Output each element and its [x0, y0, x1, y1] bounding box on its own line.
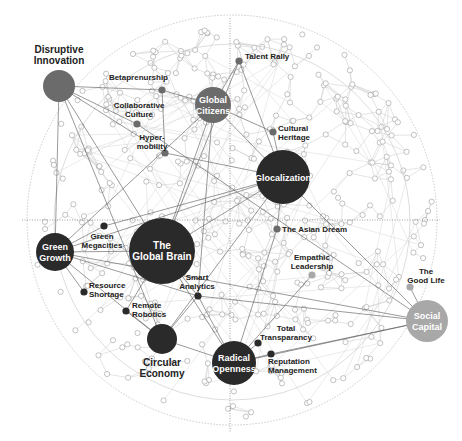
minor-node [157, 183, 162, 188]
trend-green-megacities[interactable]: GreenMegacities [82, 222, 123, 250]
minor-node [219, 292, 224, 297]
trend-label: Leadership [291, 262, 334, 271]
minor-node [375, 129, 380, 134]
minor-node [234, 198, 239, 203]
minor-node [373, 91, 378, 96]
trend-betaprenurship[interactable]: Betaprenurship [109, 73, 168, 94]
minor-node [149, 88, 154, 93]
minor-node [306, 53, 311, 58]
minor-node [372, 176, 377, 181]
minor-node [355, 364, 360, 369]
trend-label: Culture [125, 110, 154, 119]
minor-node [230, 404, 235, 409]
minor-node [214, 35, 219, 40]
trend-label: Betaprenurship [109, 73, 168, 82]
minor-node [341, 376, 346, 381]
minor-node [421, 165, 426, 170]
minor-node [185, 51, 190, 56]
trend-the-asian-dream[interactable]: The Asian Dream [273, 225, 347, 234]
minor-node [384, 154, 389, 159]
megatrend-label: Global Brain [132, 251, 191, 262]
minor-node [285, 92, 290, 97]
minor-node [380, 139, 385, 144]
minor-node [395, 120, 400, 125]
megatrend-green-growth[interactable]: GreenGrowth [36, 233, 74, 271]
minor-node [279, 381, 284, 386]
trend-smart-analytics[interactable]: SmartAnalytics [179, 273, 215, 300]
minor-node [106, 94, 111, 99]
trend-label: The [419, 267, 434, 276]
minor-node [210, 75, 215, 80]
minor-node [201, 154, 206, 159]
megatrend-global-citizens[interactable]: GlobalCitizens [195, 87, 231, 123]
trend-dot-icon [80, 288, 87, 295]
minor-node [370, 160, 375, 165]
minor-node [202, 28, 207, 33]
megatrend-label: Innovation [34, 55, 85, 66]
minor-node [325, 318, 330, 323]
minor-node [381, 262, 386, 267]
megatrend-label: Citizens [196, 106, 231, 116]
megatrend-circle-icon [406, 300, 448, 342]
trend-hyper-mobility[interactable]: Hyper-mobility [137, 133, 169, 157]
megatrend-social-capital[interactable]: SocialCapital [406, 300, 448, 342]
megatrend-circular-economy[interactable]: CircularEconomy [139, 324, 184, 379]
minor-node [411, 250, 416, 255]
minor-node [421, 221, 426, 226]
minor-node [343, 97, 348, 102]
minor-node [273, 299, 278, 304]
minor-node [287, 100, 292, 105]
minor-node [107, 180, 112, 185]
minor-node [389, 133, 394, 138]
minor-node [161, 398, 166, 403]
megatrend-circle-icon [195, 87, 231, 123]
minor-node [246, 227, 251, 232]
minor-node [126, 296, 131, 301]
minor-node [201, 229, 206, 234]
minor-node [303, 143, 308, 148]
trend-dot-icon [158, 86, 165, 93]
megatrend-the-global-brain[interactable]: TheGlobal Brain [129, 218, 195, 284]
minor-node [110, 338, 115, 343]
minor-node [388, 163, 393, 168]
minor-node [265, 37, 270, 42]
trend-remote-robotics[interactable]: RemoteRobotics [122, 301, 166, 319]
minor-node [375, 249, 380, 254]
megatrend-label: Glocalization [255, 173, 311, 183]
minor-node [333, 313, 338, 318]
trend-the-good-life[interactable]: TheGood Life [406, 267, 445, 291]
minor-node [144, 179, 149, 184]
minor-node [377, 214, 382, 219]
minor-node [340, 201, 345, 206]
minor-node [128, 156, 133, 161]
minor-node [367, 203, 372, 208]
minor-node [86, 320, 91, 325]
minor-node [364, 304, 369, 309]
minor-node [292, 64, 297, 69]
megatrend-label: Economy [139, 368, 184, 379]
minor-node [273, 113, 278, 118]
minor-node [218, 249, 223, 254]
minor-node [203, 53, 208, 58]
minor-node [192, 127, 197, 132]
megatrend-circle-icon [36, 233, 74, 271]
minor-node [287, 45, 292, 50]
minor-node [205, 361, 210, 366]
minor-node [378, 341, 383, 346]
trend-label: Empathic [294, 253, 331, 262]
minor-node [183, 98, 188, 103]
minor-node [293, 317, 298, 322]
minor-node [307, 115, 312, 120]
minor-node [374, 262, 379, 267]
megatrend-disruptive-innovation[interactable]: DisruptiveInnovation [34, 44, 85, 102]
minor-node [261, 311, 266, 316]
minor-node [281, 240, 286, 245]
megatrend-radical-openness[interactable]: RadicalOpenness [212, 341, 256, 385]
minor-node [356, 261, 361, 266]
minor-node [339, 286, 344, 291]
trend-cultural-heritage[interactable]: CulturalHeritage [269, 124, 310, 142]
minor-node [194, 242, 199, 247]
trend-label: Hyper- [139, 133, 165, 142]
minor-node [271, 62, 276, 67]
minor-node [268, 216, 273, 221]
